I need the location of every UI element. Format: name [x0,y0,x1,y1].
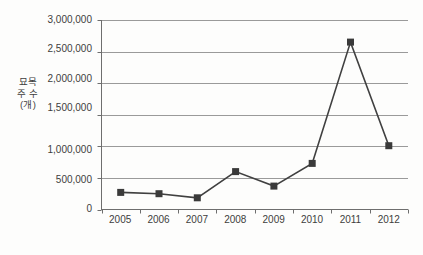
data-point-marker [309,160,316,167]
axis-lines [101,20,408,210]
x-tick-label: 2008 [216,214,254,232]
data-line [121,42,389,198]
x-tick-label: 2009 [255,214,293,232]
x-tick-label: 2005 [101,214,139,232]
line-chart: 묘목 주 수 (개) 3,000,000 2,500,000 2,000,000… [0,0,423,255]
x-tick-label: 2007 [178,214,216,232]
x-tick-label: 2006 [139,214,177,232]
data-point-marker [270,183,277,190]
data-point-marker [117,189,124,196]
gridlines [102,21,409,179]
data-point-marker [194,194,201,201]
x-tick-label: 2010 [293,214,331,232]
x-tick-label: 2012 [370,214,408,232]
data-point-marker [385,142,392,149]
data-markers [117,39,392,202]
data-point-marker [347,39,354,46]
x-tick-marks [103,210,409,214]
y-tick-marks [98,21,102,211]
data-point-marker [232,168,239,175]
data-point-marker [156,190,163,197]
x-axis-tick-labels: 2005 2006 2007 2008 2009 2010 2011 2012 [101,214,408,232]
x-tick-label: 2011 [331,214,369,232]
